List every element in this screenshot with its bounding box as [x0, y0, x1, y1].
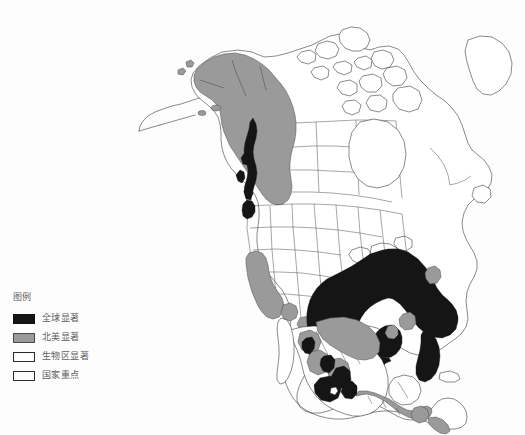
map-legend: 图例 全球显著 北美显著 生物区显著 国家重点: [13, 292, 123, 385]
region-great-basin: [281, 303, 298, 321]
legend-label-national-priority: 国家重点: [42, 370, 80, 381]
legend-item-globally-significant: 全球显著: [13, 309, 123, 328]
legend-item-national-priority: 国家重点: [13, 366, 123, 385]
legend-label-globally-significant: 全球显著: [42, 313, 80, 324]
legend-swatch-north-america-significant: [13, 333, 35, 343]
legend-item-bioregion-significant: 生物区显著: [13, 347, 123, 366]
legend-swatch-globally-significant: [13, 314, 35, 324]
legend-label-bioregion-significant: 生物区显著: [42, 351, 89, 362]
legend-item-north-america-significant: 北美显著: [13, 328, 123, 347]
legend-swatch-bioregion-significant: [13, 352, 35, 362]
legend-swatch-national-priority: [13, 371, 35, 381]
legend-title: 图例: [13, 292, 123, 303]
figure-page: 图 3.9 保育的生态区进化现状 .ln { fill:none; stroke…: [0, 0, 525, 435]
legend-label-north-america-significant: 北美显著: [42, 332, 80, 343]
